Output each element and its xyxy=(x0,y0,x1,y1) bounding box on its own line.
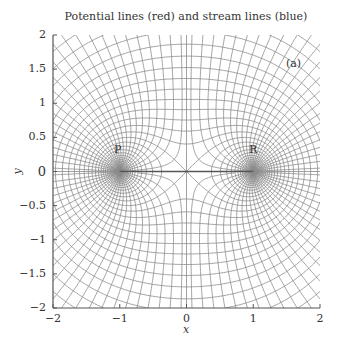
y-tick-label: −0.5 xyxy=(16,200,46,211)
y-tick-label: 1 xyxy=(16,97,46,108)
point-label-r: R xyxy=(249,143,257,156)
y-tick-label: −2 xyxy=(16,302,46,313)
y-tick-label: 2 xyxy=(16,29,46,40)
x-axis-label: x xyxy=(183,323,189,336)
x-tick-label: 1 xyxy=(238,313,268,324)
panel-label: (a) xyxy=(286,57,301,70)
y-tick-label: 0.5 xyxy=(16,131,46,142)
y-tick-label: −1 xyxy=(16,234,46,245)
flow-plot xyxy=(0,0,340,339)
x-tick-label: −1 xyxy=(105,313,135,324)
point-label-p: P xyxy=(114,143,121,156)
x-tick-label: 2 xyxy=(305,313,335,324)
y-tick-label: 1.5 xyxy=(16,63,46,74)
y-tick-label: −1.5 xyxy=(16,268,46,279)
x-tick-label: −2 xyxy=(38,313,68,324)
y-axis-label: y xyxy=(11,168,24,174)
